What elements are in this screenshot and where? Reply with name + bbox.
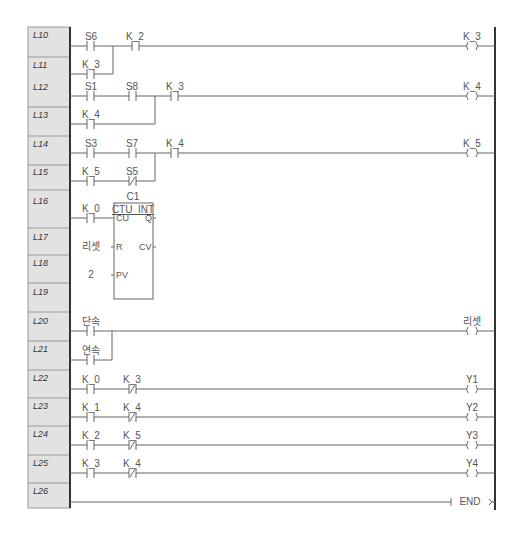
row-label: L17	[33, 233, 48, 242]
contact-label: S7	[126, 139, 138, 149]
pin-pv: PV	[116, 271, 128, 280]
row-label: L16	[33, 197, 48, 206]
row-label: L22	[33, 374, 48, 383]
contact-label: K_0	[82, 204, 100, 214]
rung-8	[70, 440, 495, 450]
pin-q: Q	[145, 214, 152, 223]
row-label: L14	[33, 140, 48, 149]
end-label: END	[459, 497, 480, 507]
row-label: L24	[33, 430, 48, 439]
coil-label: K_3	[463, 32, 481, 42]
row-label: L19	[33, 288, 48, 297]
row-label: L20	[33, 317, 48, 326]
pin-cv: CV	[139, 243, 152, 252]
contact-label: S1	[85, 82, 97, 92]
coil-label: K_4	[463, 82, 481, 92]
contact-label: K_3	[82, 60, 100, 70]
contact-label: S8	[126, 82, 138, 92]
contact-label: K_4	[82, 110, 100, 120]
row-label: L23	[33, 402, 48, 411]
pin-cu: CU	[116, 214, 129, 223]
row-label: L18	[33, 259, 48, 268]
row-label: L12	[33, 83, 48, 92]
row-label: L13	[33, 111, 48, 120]
contact-label: K_2	[126, 32, 144, 42]
contact-label: 단속	[82, 317, 100, 327]
coil-label: Y4	[466, 459, 478, 469]
contact-label: K_5	[123, 431, 141, 441]
coil-label: Y3	[466, 431, 478, 441]
contact-label: K_0	[82, 375, 100, 385]
ladder-diagram	[0, 0, 521, 534]
input-label: 리셋	[82, 242, 100, 252]
contact-label: K_4	[123, 459, 141, 469]
row-label: L11	[33, 61, 47, 70]
contact-label: K_4	[166, 139, 184, 149]
contact-label: S6	[85, 32, 97, 42]
contact-label: S5	[126, 167, 138, 177]
contact-label: 연속	[82, 346, 100, 356]
coil-label: Y2	[466, 403, 478, 413]
rung-end	[70, 498, 495, 506]
row-label: L10	[33, 31, 48, 40]
rung-5	[70, 326, 495, 365]
block-instance: C1	[127, 192, 140, 202]
contact-label: K_3	[82, 459, 100, 469]
coil-label: 리셋	[463, 317, 481, 327]
contact-label: K_2	[82, 431, 100, 441]
coil-label: Y1	[466, 375, 478, 385]
row-label: L15	[33, 168, 48, 177]
rung-7	[70, 412, 495, 422]
contact-label: K_4	[123, 403, 141, 413]
rung-1	[70, 41, 495, 79]
row-label: L26	[33, 487, 48, 496]
rung-6	[70, 384, 495, 394]
contact-label: K_3	[166, 82, 184, 92]
rung-9	[70, 468, 495, 478]
input-label: 2	[88, 270, 94, 280]
pin-r: R	[116, 243, 123, 252]
rung-2	[70, 91, 495, 129]
contact-label: K_3	[123, 375, 141, 385]
contact-label: K_5	[82, 167, 100, 177]
contact-label: K_1	[82, 403, 100, 413]
coil-label: K_5	[463, 139, 481, 149]
contact-label: S3	[85, 139, 97, 149]
row-label: L25	[33, 459, 48, 468]
row-label: L21	[33, 345, 48, 354]
